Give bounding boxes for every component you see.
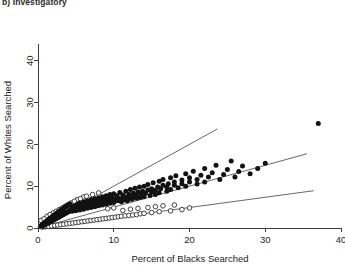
data-point (153, 204, 158, 209)
data-point (111, 206, 116, 211)
data-point (180, 207, 185, 212)
data-point (145, 182, 150, 187)
x-tick-label: 0 (35, 234, 40, 245)
data-point (236, 169, 241, 174)
data-point (202, 180, 207, 185)
data-point (255, 166, 260, 171)
data-point (316, 121, 321, 126)
data-point (191, 169, 196, 174)
data-point (195, 182, 200, 187)
data-point (96, 191, 101, 196)
data-point (160, 177, 165, 182)
data-point (137, 185, 142, 190)
data-point (121, 208, 126, 213)
x-axis-title: Percent of Blacks Searched (131, 253, 248, 264)
data-point (168, 175, 173, 180)
data-point (183, 171, 188, 176)
y-tick-label: 20 (24, 139, 35, 150)
data-point (90, 192, 95, 197)
data-point (263, 161, 268, 166)
x-axis-ticks: 010203040 (35, 228, 345, 245)
data-point (149, 210, 154, 215)
data-point (161, 204, 166, 209)
data-point (128, 207, 133, 212)
data-point (187, 175, 192, 180)
data-point (225, 167, 230, 172)
data-point (157, 209, 162, 214)
scatter-plot: 010203040 010203040 Percent of Blacks Se… (0, 0, 345, 268)
y-axis-title: Percent of Whites Searched (2, 81, 13, 199)
data-point (248, 171, 253, 176)
x-tick-label: 10 (108, 234, 119, 245)
y-tick-label: 0 (24, 225, 35, 230)
x-tick-label: 30 (260, 234, 271, 245)
filled-points-group (38, 121, 321, 229)
x-tick-label: 40 (336, 234, 345, 245)
x-tick-label: 20 (184, 234, 195, 245)
data-point (221, 172, 226, 177)
data-point (187, 206, 192, 211)
data-point (173, 173, 178, 178)
data-point (240, 164, 245, 169)
data-point (202, 166, 207, 171)
data-point (151, 180, 156, 185)
y-tick-label: 40 (24, 55, 35, 66)
data-point (84, 194, 89, 199)
data-point (195, 177, 200, 182)
figure-panel: b) Investigatory 010203040 010203040 Per… (0, 0, 345, 268)
y-tick-label: 30 (24, 97, 35, 108)
data-point (168, 209, 173, 214)
data-point (198, 173, 203, 178)
y-axis-ticks: 010203040 (24, 55, 38, 230)
data-point (105, 206, 110, 211)
data-point (206, 174, 211, 179)
data-point (229, 159, 234, 164)
data-point (172, 180, 177, 185)
data-point (176, 185, 181, 190)
data-point (168, 187, 173, 192)
data-point (172, 203, 177, 208)
data-point (217, 177, 222, 182)
data-point (210, 170, 215, 175)
data-point (136, 206, 141, 211)
y-tick-label: 10 (24, 181, 35, 192)
data-point (142, 211, 147, 216)
data-point (166, 181, 171, 186)
data-point (146, 205, 151, 210)
data-point (232, 174, 237, 179)
data-point (179, 177, 184, 182)
data-point (183, 184, 188, 189)
reference-lines-group (38, 129, 314, 228)
data-point (214, 163, 219, 168)
